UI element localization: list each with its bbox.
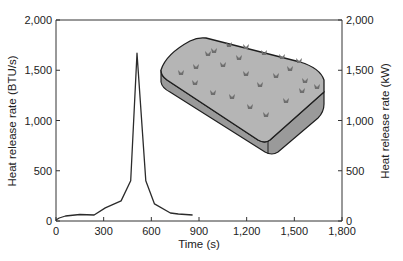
y-right-tick-label: 1,000 [346,115,374,127]
x-tick-label: 900 [190,225,208,237]
y-axis-left-ticks: 05001,0001,5002,000 [24,14,60,227]
y-left-tick-label: 0 [46,215,52,227]
x-axis-title: Time (s) [178,238,220,250]
y-axis-right-ticks: 05001,0001,5002,000 [338,14,374,227]
tuft-icon [243,44,249,49]
tuft-icon [279,54,285,59]
x-tick-label: 600 [142,225,160,237]
heat-release-chart: 03006009001,2001,5001,800 05001,0001,500… [0,0,403,261]
y-axis-right-title: Heat release rate (kW) [379,63,391,179]
x-tick-label: 1,500 [281,225,309,237]
mattress-illustration [161,38,324,154]
y-left-tick-label: 2,000 [24,14,52,26]
y-right-tick-label: 2,000 [346,14,374,26]
y-right-tick-label: 1,500 [346,64,374,76]
y-left-tick-label: 1,000 [24,115,52,127]
y-left-tick-label: 1,500 [24,64,52,76]
x-tick-label: 300 [94,225,112,237]
x-axis-ticks: 03006009001,2001,5001,800 [53,217,356,237]
x-tick-label: 0 [53,225,59,237]
tuft-icon [296,58,302,63]
y-right-tick-label: 500 [346,165,364,177]
y-right-tick-label: 0 [346,215,352,227]
y-left-tick-label: 500 [34,165,52,177]
x-tick-label: 1,200 [233,225,261,237]
y-axis-left-title: Heat release rate (BTU/s) [6,55,18,186]
